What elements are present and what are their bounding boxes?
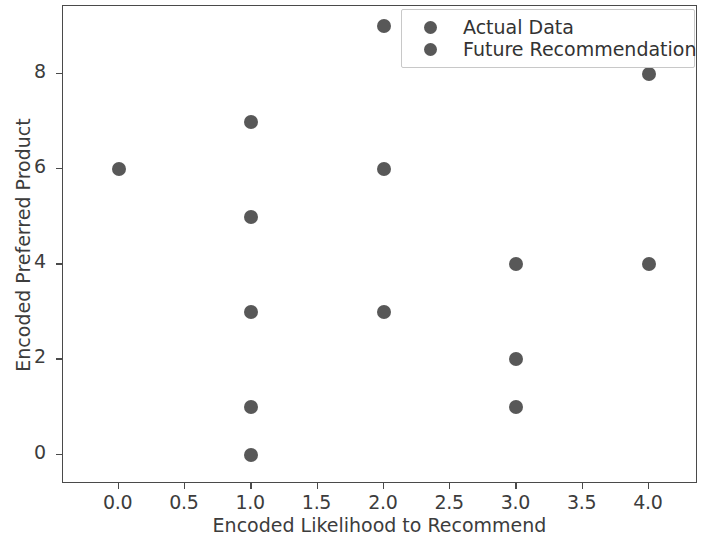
circle-marker-icon: [424, 43, 437, 56]
x-axis-tick-label: 1.0: [220, 491, 280, 513]
x-axis-tick-label: 3.5: [552, 491, 612, 513]
x-axis-tick: [317, 483, 318, 489]
x-axis-tick: [515, 483, 516, 489]
x-axis-tick: [582, 483, 583, 489]
x-axis-tick: [184, 483, 185, 489]
x-axis-tick: [648, 483, 649, 489]
y-axis-tick-label: 8: [0, 60, 46, 82]
x-axis-tick-label: 4.0: [618, 491, 678, 513]
legend: Actual Data Future Recommendation: [401, 9, 695, 68]
y-axis-tick-label: 4: [0, 250, 46, 272]
y-axis-tick: [56, 73, 62, 74]
x-axis-tick-label: 1.5: [287, 491, 347, 513]
x-axis-tick-label: 0.5: [154, 491, 214, 513]
x-axis-tick: [118, 483, 119, 489]
data-point: [244, 305, 258, 319]
x-axis-tick-label: 3.0: [485, 491, 545, 513]
data-point: [244, 210, 258, 224]
x-axis-label: Encoded Likelihood to Recommend: [62, 514, 697, 536]
y-axis-tick: [56, 168, 62, 169]
data-point: [377, 162, 391, 176]
x-axis-tick: [250, 483, 251, 489]
scatter-plot-figure: Encoded Likelihood to Recommend Encoded …: [0, 0, 712, 544]
data-point: [244, 448, 258, 462]
x-axis-tick: [449, 483, 450, 489]
legend-item: Actual Data: [412, 16, 684, 38]
y-axis-tick-label: 0: [0, 441, 46, 463]
x-axis-tick-label: 2.0: [353, 491, 413, 513]
legend-item-label: Future Recommendation: [463, 38, 697, 60]
data-point: [244, 115, 258, 129]
data-point: [509, 257, 523, 271]
y-axis-tick-label: 2: [0, 345, 46, 367]
y-axis-tick: [56, 454, 62, 455]
data-point: [112, 162, 126, 176]
data-points-layer: [63, 6, 696, 482]
x-axis-tick-label: 2.5: [419, 491, 479, 513]
data-point: [377, 305, 391, 319]
data-point: [377, 19, 391, 33]
data-point: [642, 67, 656, 81]
data-point: [244, 400, 258, 414]
data-point: [509, 352, 523, 366]
legend-item: Future Recommendation: [412, 38, 684, 60]
circle-marker-icon: [424, 21, 437, 34]
y-axis-tick-label: 6: [0, 155, 46, 177]
data-point: [509, 400, 523, 414]
plot-area: [62, 5, 697, 483]
y-axis-tick: [56, 358, 62, 359]
data-point: [642, 257, 656, 271]
x-axis-tick-label: 0.0: [88, 491, 148, 513]
legend-item-label: Actual Data: [463, 16, 574, 38]
y-axis-tick: [56, 263, 62, 264]
x-axis-tick: [383, 483, 384, 489]
